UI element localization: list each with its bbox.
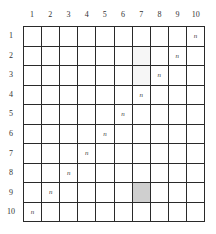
grid-cell[interactable] (24, 144, 42, 164)
grid-cell[interactable] (169, 164, 187, 184)
grid-cell[interactable] (24, 66, 42, 86)
grid-cell[interactable] (78, 86, 96, 106)
grid-cell[interactable] (169, 27, 187, 47)
grid-cell[interactable] (42, 144, 60, 164)
grid-cell[interactable] (115, 27, 133, 47)
grid-cell[interactable]: n (78, 144, 96, 164)
grid-cell[interactable] (169, 203, 187, 223)
grid-cell[interactable] (151, 164, 169, 184)
grid-cell[interactable] (24, 125, 42, 145)
grid-cell[interactable] (133, 144, 151, 164)
grid-cell[interactable] (187, 125, 205, 145)
grid-cell[interactable] (78, 105, 96, 125)
grid-cell[interactable]: n (115, 105, 133, 125)
grid-cell[interactable] (78, 66, 96, 86)
grid-cell[interactable] (133, 125, 151, 145)
grid-cell[interactable] (42, 105, 60, 125)
grid-cell[interactable] (60, 27, 78, 47)
grid-cell[interactable] (151, 144, 169, 164)
grid-cell-shaded[interactable] (133, 183, 151, 203)
grid-cell[interactable] (60, 66, 78, 86)
grid-cell[interactable]: n (133, 86, 151, 106)
grid-cell[interactable] (187, 183, 205, 203)
grid-cell[interactable] (42, 66, 60, 86)
grid-cell[interactable] (115, 164, 133, 184)
grid-cell[interactable] (115, 66, 133, 86)
grid-cell[interactable] (169, 125, 187, 145)
grid-cell[interactable] (42, 164, 60, 184)
grid-cell[interactable] (96, 203, 114, 223)
grid-cell[interactable] (78, 183, 96, 203)
grid-cell[interactable] (115, 144, 133, 164)
grid-cell[interactable] (60, 144, 78, 164)
grid-cell[interactable] (60, 183, 78, 203)
grid-cell[interactable] (24, 27, 42, 47)
grid-cell[interactable] (78, 47, 96, 67)
grid-cell[interactable]: n (96, 125, 114, 145)
grid-cell[interactable]: n (60, 164, 78, 184)
grid-cell[interactable] (78, 27, 96, 47)
grid-cell[interactable] (169, 144, 187, 164)
grid-cell[interactable]: n (151, 66, 169, 86)
grid-cell[interactable] (115, 47, 133, 67)
grid-cell[interactable] (42, 125, 60, 145)
grid-cell[interactable] (115, 86, 133, 106)
grid-cell[interactable] (187, 144, 205, 164)
grid-cell[interactable] (42, 47, 60, 67)
grid-cell[interactable] (96, 27, 114, 47)
grid-cell[interactable] (151, 27, 169, 47)
grid-cell[interactable] (96, 105, 114, 125)
grid-cell[interactable] (187, 86, 205, 106)
grid-cell[interactable] (151, 86, 169, 106)
grid-cell[interactable]: n (24, 203, 42, 223)
grid-cell[interactable] (151, 125, 169, 145)
grid-cell[interactable] (96, 183, 114, 203)
grid-cell[interactable] (24, 47, 42, 67)
grid-cell[interactable] (133, 27, 151, 47)
grid-cell[interactable] (151, 47, 169, 67)
grid-cell[interactable] (151, 183, 169, 203)
grid-cell[interactable] (60, 47, 78, 67)
grid-cell[interactable] (78, 203, 96, 223)
grid-cell[interactable] (169, 66, 187, 86)
grid-cell[interactable] (151, 203, 169, 223)
grid-cell[interactable] (42, 27, 60, 47)
grid-cell[interactable] (96, 66, 114, 86)
grid-cell[interactable] (96, 144, 114, 164)
grid-cell[interactable] (96, 164, 114, 184)
grid-cell[interactable] (169, 86, 187, 106)
grid-cell[interactable] (78, 164, 96, 184)
grid-cell[interactable] (187, 203, 205, 223)
grid-cell[interactable] (169, 105, 187, 125)
grid-cell[interactable]: n (187, 27, 205, 47)
grid-cell[interactable] (187, 164, 205, 184)
grid-cell[interactable] (78, 125, 96, 145)
grid-cell[interactable] (169, 183, 187, 203)
grid-cell[interactable] (96, 86, 114, 106)
grid-cell[interactable] (96, 47, 114, 67)
grid-cell[interactable] (115, 203, 133, 223)
grid-cell[interactable] (60, 105, 78, 125)
grid-cell[interactable] (187, 47, 205, 67)
grid-cell[interactable] (42, 86, 60, 106)
grid-cell[interactable] (187, 105, 205, 125)
grid-cell[interactable] (60, 125, 78, 145)
grid-cell[interactable] (133, 47, 151, 67)
grid-cell[interactable] (115, 183, 133, 203)
grid-cell[interactable] (60, 203, 78, 223)
grid-cell[interactable] (42, 203, 60, 223)
grid-cell[interactable] (151, 105, 169, 125)
grid-cell[interactable] (133, 66, 151, 86)
grid-cell[interactable] (115, 125, 133, 145)
grid-cell[interactable] (133, 203, 151, 223)
grid-cell[interactable] (133, 164, 151, 184)
grid-cell[interactable] (24, 105, 42, 125)
grid-cell[interactable] (60, 86, 78, 106)
grid-cell[interactable] (24, 164, 42, 184)
grid-cell[interactable]: n (42, 183, 60, 203)
grid-cell[interactable] (24, 183, 42, 203)
grid-cell[interactable] (133, 105, 151, 125)
grid-cell[interactable] (187, 66, 205, 86)
grid-cell[interactable] (24, 86, 42, 106)
grid-cell[interactable]: n (169, 47, 187, 67)
